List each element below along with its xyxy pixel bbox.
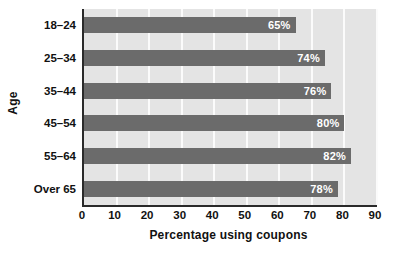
x-axis-tick-label: 50 — [238, 209, 251, 221]
x-axis-tick-label: 0 — [79, 209, 85, 221]
bar-row: 80% — [84, 115, 377, 131]
bar-row: 76% — [84, 83, 377, 99]
bar-value-label: 65% — [268, 19, 291, 31]
bar-value-label: 76% — [304, 85, 327, 97]
bar[interactable]: 65% — [84, 17, 296, 33]
x-axis-title: Percentage using coupons — [82, 228, 375, 242]
x-axis-tick-labels: 0102030405060708090 — [82, 209, 375, 225]
bar-value-label: 78% — [310, 183, 333, 195]
bar[interactable]: 74% — [84, 50, 325, 66]
bar-row: 65% — [84, 17, 377, 33]
bar-value-label: 74% — [297, 52, 320, 64]
bar-row: 82% — [84, 148, 377, 164]
y-axis-tick-label: 25–34 — [20, 42, 80, 75]
bar[interactable]: 76% — [84, 83, 331, 99]
bar-value-label: 82% — [323, 150, 346, 162]
y-axis-tick-label: Over 65 — [20, 172, 80, 205]
x-axis-tick-label: 20 — [141, 209, 154, 221]
y-axis-tick-labels: 18–2425–3435–4445–5455–64Over 65 — [20, 9, 80, 205]
bar-row: 74% — [84, 50, 377, 66]
y-axis-title-label: Age — [6, 91, 20, 114]
bar[interactable]: 78% — [84, 181, 338, 197]
y-axis-tick-label: 55–64 — [20, 140, 80, 173]
bars-layer: 65%74%76%80%82%78% — [84, 9, 377, 205]
bar[interactable]: 82% — [84, 148, 351, 164]
y-axis-tick-label: 35–44 — [20, 74, 80, 107]
x-axis-tick-label: 70 — [303, 209, 316, 221]
bar-chart-figure: Age 18–2425–3435–4445–5455–64Over 65 65%… — [0, 0, 407, 254]
bar-row: 78% — [84, 181, 377, 197]
x-axis-tick-label: 40 — [206, 209, 219, 221]
x-axis-tick-label: 80 — [336, 209, 349, 221]
x-axis-tick-label: 30 — [173, 209, 186, 221]
x-axis-tick-label: 10 — [108, 209, 121, 221]
bar[interactable]: 80% — [84, 115, 344, 131]
x-axis-tick-label: 90 — [369, 209, 382, 221]
y-axis-tick-label: 18–24 — [20, 9, 80, 42]
plot-area: 65%74%76%80%82%78% — [82, 9, 377, 207]
x-axis-tick-label: 60 — [271, 209, 284, 221]
y-axis-tick-label: 45–54 — [20, 107, 80, 140]
bar-value-label: 80% — [317, 117, 340, 129]
